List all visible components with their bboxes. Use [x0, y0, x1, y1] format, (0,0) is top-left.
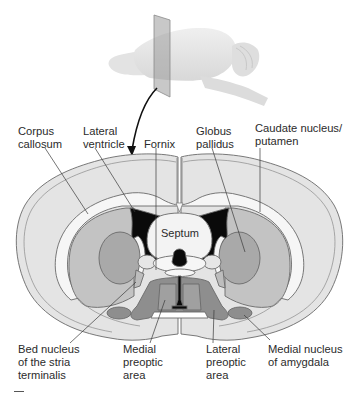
- right-medial-amygdala: [228, 307, 252, 319]
- label-line: area: [206, 369, 246, 382]
- cerebrum: [134, 28, 236, 81]
- label-line: Lateral: [206, 343, 246, 356]
- label-line: Medial: [123, 343, 163, 356]
- label-corpus-callosum: Corpus callosum: [18, 125, 62, 151]
- label-line: Lateral: [83, 125, 125, 138]
- label-line: Medial nucleus: [268, 343, 343, 356]
- label-fornix: Fornix: [144, 138, 175, 151]
- coronal-section: [16, 154, 342, 340]
- label-line: callosum: [18, 138, 62, 151]
- label-caudate-putamen: Caudate nucleus/ putamen: [255, 122, 342, 148]
- label-line: terminalis: [18, 369, 80, 382]
- right-globus-pallidus: [218, 232, 260, 284]
- third-ventricle-top: [172, 249, 187, 267]
- label-line: Corpus: [18, 125, 62, 138]
- label-line: pallidus: [196, 138, 234, 151]
- label-line: preoptic: [206, 356, 246, 369]
- label-lateral-preoptic: Lateral preoptic area: [206, 343, 246, 382]
- label-line: area: [123, 369, 163, 382]
- label-medial-preoptic: Medial preoptic area: [123, 343, 163, 382]
- label-line: Bed nucleus: [18, 343, 80, 356]
- label-bed-nucleus: Bed nucleus of the stria terminalis: [18, 343, 80, 382]
- cutting-plane: [154, 15, 170, 97]
- left-medial-amygdala: [107, 307, 131, 319]
- brain-diagram: [0, 0, 359, 393]
- label-line: preoptic: [123, 356, 163, 369]
- scale-mark: [14, 391, 24, 392]
- label-septum: Septum: [161, 227, 199, 239]
- label-line: Caudate nucleus/: [255, 122, 342, 135]
- label-medial-amygdala: Medial nucleus of amygdala: [268, 343, 343, 369]
- label-globus-pallidus: Globus pallidus: [196, 125, 234, 151]
- label-line: of amygdala: [268, 356, 343, 369]
- label-line: of the stria: [18, 356, 80, 369]
- label-line: putamen: [255, 135, 342, 148]
- lateral-brain-view: [109, 15, 268, 106]
- label-lateral-ventricle: Lateral ventricle: [83, 125, 125, 151]
- label-line: Globus: [196, 125, 234, 138]
- label-line: ventricle: [83, 138, 125, 151]
- brainstem: [200, 76, 268, 106]
- left-globus-pallidus: [99, 232, 141, 284]
- label-line: Fornix: [144, 138, 175, 151]
